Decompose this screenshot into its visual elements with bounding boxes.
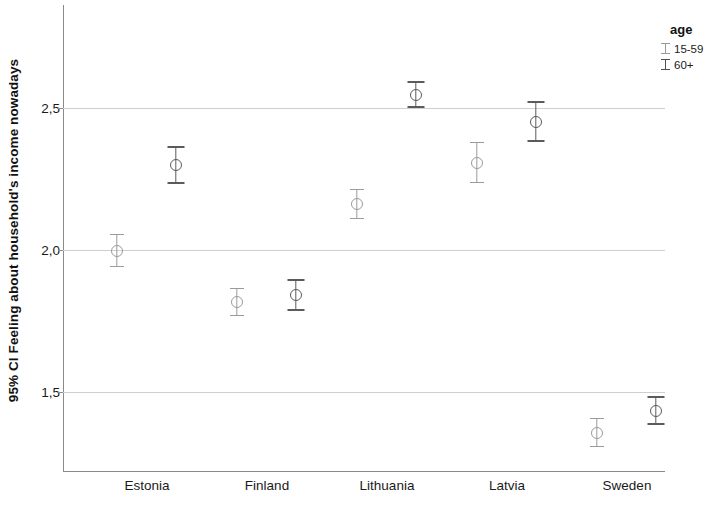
x-axis-line xyxy=(63,471,665,472)
legend-label-60-plus: 60+ xyxy=(674,59,694,71)
gridline-2-5 xyxy=(63,108,665,109)
gridline-2-0 xyxy=(63,250,665,251)
legend: age 15-59 60+ xyxy=(660,22,722,73)
y-tick-label-1-5: 1,5 xyxy=(24,385,60,400)
error-bar-key-icon xyxy=(660,58,671,71)
x-label-finland: Finland xyxy=(245,478,289,493)
chart-figure: 95% CI Feeling about household's income … xyxy=(0,0,722,515)
x-axis-category-labels: Estonia Finland Lithuania Latvia Sweden xyxy=(63,478,665,502)
y-tick-label-2-0: 2,0 xyxy=(24,243,60,258)
plot-area xyxy=(63,5,665,472)
legend-title: age xyxy=(670,22,722,37)
y-axis-title-text: 95% CI Feeling about household's income … xyxy=(7,58,22,401)
x-label-estonia: Estonia xyxy=(124,478,169,493)
y-tick-mark-2-0 xyxy=(58,250,63,251)
y-tick-mark-2-5 xyxy=(58,108,63,109)
y-tick-mark-1-5 xyxy=(58,392,63,393)
legend-item-60-plus: 60+ xyxy=(660,57,722,72)
legend-label-15-59: 15-59 xyxy=(674,43,703,55)
x-label-sweden: Sweden xyxy=(603,478,652,493)
y-axis-line xyxy=(63,5,64,472)
x-label-latvia: Latvia xyxy=(489,478,525,493)
y-tick-label-2-5: 2,5 xyxy=(24,101,60,116)
x-label-lithuania: Lithuania xyxy=(360,478,415,493)
gridline-1-5 xyxy=(63,392,665,393)
error-bar-key-icon xyxy=(660,42,671,55)
legend-item-15-59: 15-59 xyxy=(660,41,722,56)
y-axis-tick-labels: 2,5 2,0 1,5 xyxy=(22,0,60,515)
